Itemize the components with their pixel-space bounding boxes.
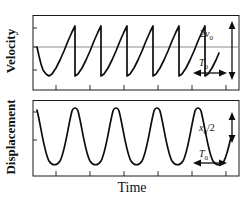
- velocity-amplitude-subscript: 0: [209, 34, 213, 42]
- displacement-amplitude-label: x0/2: [199, 122, 215, 136]
- velocity-amplitude-label: 2v0: [200, 28, 213, 42]
- displacement-period-label: T0: [199, 148, 208, 162]
- time-axis-label-text: Time: [117, 180, 146, 196]
- velocity-period-label: T0: [199, 57, 208, 71]
- displacement-panel: [33, 101, 239, 177]
- velocity-axis-label: Velocity: [4, 21, 18, 81]
- velocity-period-subscript: 0: [205, 63, 209, 71]
- physics-figure: Velocity Displacement Time 2v0 T0 x0/2 T…: [0, 0, 250, 204]
- displacement-period-subscript: 0: [205, 154, 209, 162]
- displacement-amplitude-suffix: /2: [207, 122, 215, 133]
- velocity-panel: [33, 16, 239, 91]
- time-axis-label: Time: [0, 180, 250, 196]
- displacement-axis-label: Displacement: [4, 95, 18, 179]
